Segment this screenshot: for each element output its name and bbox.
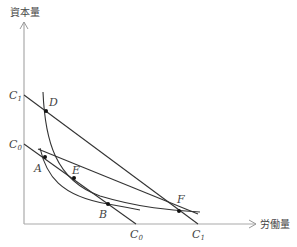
label-e: E xyxy=(71,164,80,177)
label-c0-y: C0 xyxy=(9,138,22,152)
point-a xyxy=(43,155,47,159)
point-b xyxy=(106,202,110,206)
label-a: A xyxy=(33,162,42,175)
point-d xyxy=(44,109,48,113)
point-f xyxy=(177,209,181,213)
label-f: F xyxy=(176,193,185,206)
axes: 資本量 労働量 xyxy=(10,6,290,230)
label-c0-x: C0 xyxy=(130,228,143,242)
label-b: B xyxy=(98,208,107,221)
isocost-line-c0 xyxy=(24,144,136,224)
isocost-isoquant-diagram: 資本量 労働量 D A E B F C1 C0 C0 C1 xyxy=(0,0,297,247)
isoquant-low xyxy=(40,148,140,210)
y-axis-label: 資本量 xyxy=(10,6,40,18)
x-axis-label: 労働量 xyxy=(260,218,290,230)
label-c1-y: C1 xyxy=(9,89,22,103)
label-d: D xyxy=(48,96,58,109)
isocost-line-rotated xyxy=(38,149,198,214)
label-c1-x: C1 xyxy=(192,228,205,242)
